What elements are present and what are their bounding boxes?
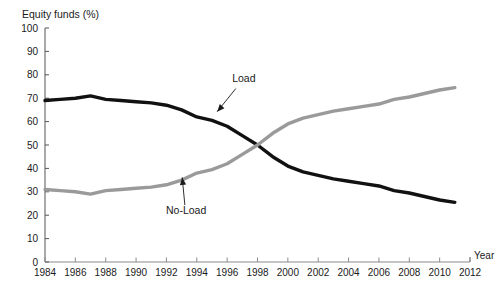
series-lines (45, 88, 455, 203)
series-annotations: LoadNo-Load (166, 72, 256, 216)
y-tick-label: 30 (27, 186, 39, 197)
y-tick-label: 100 (21, 23, 38, 34)
x-tick-label: 2000 (277, 267, 300, 278)
series-label-load: Load (232, 72, 256, 84)
y-tick-label: 40 (27, 163, 39, 174)
x-tick-label: 2008 (398, 267, 421, 278)
x-tick-label: 1988 (95, 267, 118, 278)
x-tick-label: 2012 (459, 267, 482, 278)
x-axis-title: Year (474, 250, 495, 261)
y-axis-tick-labels: 0102030405060708090100 (21, 23, 38, 268)
y-tick-label: 80 (27, 69, 39, 80)
y-axis-ticks (45, 28, 49, 262)
y-tick-label: 60 (27, 116, 39, 127)
x-tick-label: 1984 (34, 267, 57, 278)
line-chart: 0102030405060708090100 19841986198819901… (0, 0, 503, 291)
x-axis-ticks (45, 258, 470, 263)
y-tick-label: 20 (27, 210, 39, 221)
chart-container: 0102030405060708090100 19841986198819901… (0, 0, 503, 291)
x-tick-label: 1994 (186, 267, 209, 278)
annotation-arrowhead-load (217, 104, 224, 112)
y-tick-label: 50 (27, 140, 39, 151)
x-tick-label: 1990 (125, 267, 148, 278)
x-tick-label: 1996 (216, 267, 239, 278)
x-tick-label: 1986 (64, 267, 87, 278)
series-label-no-load: No-Load (166, 204, 206, 216)
y-tick-label: 90 (27, 46, 39, 57)
y-tick-label: 0 (32, 257, 38, 268)
x-tick-label: 2010 (429, 267, 452, 278)
x-axis-tick-labels: 1984198619881990199219941996199820002002… (34, 267, 482, 278)
y-axis-title: Equity funds (%) (22, 8, 99, 20)
x-tick-label: 1998 (246, 267, 269, 278)
x-tick-label: 2002 (307, 267, 330, 278)
x-tick-label: 2004 (337, 267, 360, 278)
y-tick-label: 70 (27, 93, 39, 104)
x-tick-label: 1992 (155, 267, 178, 278)
x-tick-label: 2006 (368, 267, 391, 278)
y-tick-label: 10 (27, 233, 39, 244)
